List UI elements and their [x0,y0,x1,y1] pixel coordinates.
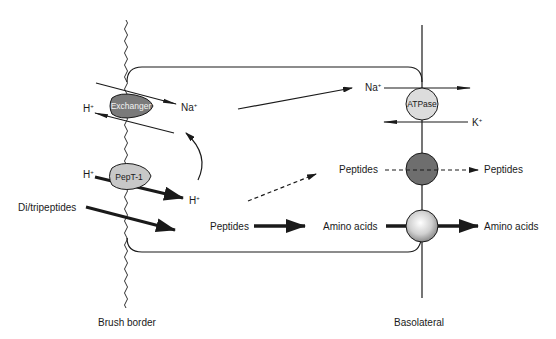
pept1-h-out-label: H+ [189,195,200,206]
baso-peptides-out-label: Peptides [484,164,523,175]
atpase-label: ATPase [407,99,437,109]
h-recycle-curved-arrow [186,133,202,180]
baso-peptides-in-label: Peptides [339,164,378,175]
atpase-na-label: Na+ [365,82,382,93]
transport-diagram: Exchanger H+ Na+ PepT-1 H+ H+ Di/tripept… [0,0,556,339]
peptide-transporter [406,153,438,185]
exchanger-h-label: H+ [83,103,94,114]
cell-peptides-label: Peptides [210,221,249,232]
basolateral-label: Basolateral [394,317,444,328]
pept1-label: PepT-1 [115,172,143,182]
ditripeptides-label: Di/tripeptides [18,202,76,213]
exchanger-label: Exchanger [111,101,152,111]
cell-outline-bottom [127,238,421,252]
atpase-k-label: K+ [472,117,483,128]
amino-acid-transporter [406,210,438,242]
pept1-h-in-label: H+ [83,169,94,180]
amino-acids-out-label: Amino acids [484,221,538,232]
brush-border-label: Brush border [98,317,156,328]
cell-outline [127,67,422,82]
amino-acids-in-label: Amino acids [323,221,377,232]
peptide-dashed-arrow [248,174,316,201]
peptide-cotransport-arrow [86,207,175,230]
na-to-atpase-arrow [238,88,352,109]
exchanger-na-label: Na+ [181,102,198,113]
